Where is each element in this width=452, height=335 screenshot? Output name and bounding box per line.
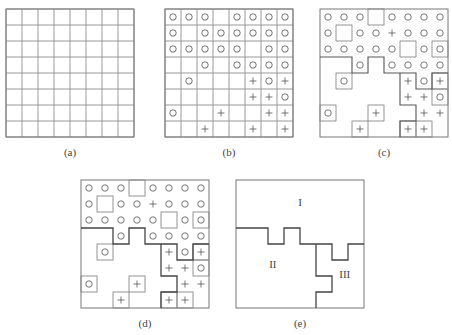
region-map: IIIIII (235, 179, 365, 310)
panel-c (319, 8, 449, 139)
caption-c: (c) (354, 146, 414, 158)
panel-a (5, 8, 135, 139)
caption-a: (a) (40, 146, 100, 158)
region-label-iii: III (339, 268, 350, 280)
empty-grid (5, 8, 135, 139)
panel-e: IIIIII (235, 179, 365, 310)
grouped-grid (319, 8, 449, 139)
caption-d: (d) (115, 317, 175, 329)
region-grid (80, 179, 210, 310)
marked-grid (164, 8, 294, 139)
panel-d (80, 179, 210, 310)
caption-b: (b) (199, 146, 259, 158)
region-label-i: I (298, 196, 302, 208)
caption-e: (e) (270, 317, 330, 329)
panel-b (164, 8, 294, 139)
region-label-ii: II (269, 258, 277, 270)
